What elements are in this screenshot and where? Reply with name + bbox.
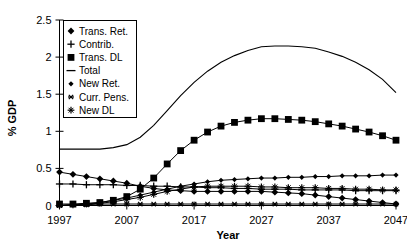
legend-item-label: New DL (79, 105, 115, 116)
marker-square (379, 132, 386, 139)
marker-square (298, 117, 305, 124)
x-tick-label: 2027 (249, 214, 273, 226)
legend-item-label: Trans. DL (79, 52, 123, 63)
x-tick-label: 1997 (47, 214, 71, 226)
legend-item-label: Contrib. (79, 39, 114, 50)
gdp-projection-line-chart: 00.511.522.5 % GDP 199720072017202720372… (0, 0, 407, 252)
marker-square (137, 186, 144, 193)
marker-square (68, 54, 75, 61)
marker-square (177, 147, 184, 154)
legend-item-label: Trans. Ret. (79, 26, 128, 37)
legend-item-label: New Ret. (79, 78, 120, 89)
marker-square (245, 117, 252, 124)
chart-legend: Trans. Ret.Contrib.Trans. DLTotalNew Ret… (64, 21, 137, 118)
marker-square (218, 123, 225, 130)
marker-square (164, 161, 171, 168)
marker-square (191, 137, 198, 144)
x-tick-label: 2007 (115, 214, 139, 226)
marker-square (285, 116, 292, 123)
x-axis-title: Year (216, 229, 240, 241)
marker-square (231, 119, 238, 126)
y-tick-label: 0.5 (36, 162, 51, 174)
marker-square (204, 129, 211, 136)
x-tick-label: 2017 (182, 214, 206, 226)
x-tick-label: 2047 (384, 214, 407, 226)
marker-square (352, 126, 359, 133)
y-tick-label: 1.5 (36, 88, 51, 100)
marker-square (271, 115, 278, 122)
legend-item-label: Curr. Pens. (79, 92, 129, 103)
legend-item-label: Total (79, 65, 100, 76)
marker-square (339, 123, 346, 130)
marker-square (150, 175, 157, 182)
marker-square (393, 137, 400, 144)
marker-square (366, 129, 373, 136)
y-axis-title: % GDP (6, 100, 18, 137)
y-tick-label: 1 (45, 125, 51, 137)
x-tick-label: 2037 (316, 214, 340, 226)
marker-square (312, 118, 319, 125)
marker-square (258, 115, 265, 122)
y-tick-label: 2 (45, 51, 51, 63)
marker-square (325, 120, 332, 127)
y-tick-label: 2.5 (36, 14, 51, 26)
y-tick-label: 0 (45, 200, 51, 212)
chart-container: 00.511.522.5 % GDP 199720072017202720372… (0, 0, 407, 252)
